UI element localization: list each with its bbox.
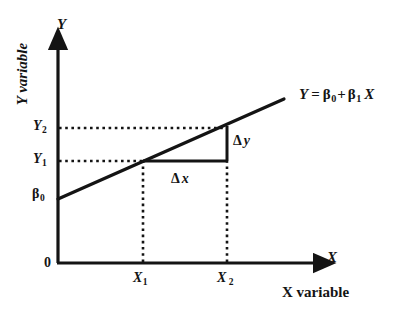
delta-y-glyph: Δ xyxy=(233,133,244,148)
y-tick-label-y2: Y2 xyxy=(33,119,47,135)
delta-y-variable: y xyxy=(244,133,250,148)
equation-intercept-base: β xyxy=(323,86,331,102)
equation-plus: + xyxy=(336,86,348,102)
x-tick-x2-subscript: 2 xyxy=(226,277,233,287)
x-tick-label-x2: X2 xyxy=(217,271,234,287)
x-tick-x1-subscript: 1 xyxy=(142,277,147,287)
y-tick-y2-base: Y xyxy=(33,118,42,133)
x-tick-x2-base: X xyxy=(217,270,226,285)
x-tick-label-x1: X1 xyxy=(133,271,148,287)
y-axis-symbol: Y xyxy=(57,17,66,32)
origin-label: 0 xyxy=(44,256,51,270)
equation-equals: = xyxy=(308,86,323,102)
y-tick-y1-base: Y xyxy=(33,151,42,166)
delta-x-glyph: Δ xyxy=(171,171,182,186)
regression-equation: Y=β0+β1X xyxy=(299,87,374,104)
delta-x-annotation: Δx xyxy=(171,172,189,186)
x-axis-symbol: X xyxy=(327,250,337,265)
y-axis-caption: Y variable xyxy=(15,43,30,105)
delta-x-variable: x xyxy=(182,171,189,186)
delta-y-annotation: Δy xyxy=(233,134,250,148)
equation-regressor: X xyxy=(361,86,374,102)
y-tick-y2-subscript: 2 xyxy=(42,125,47,135)
x-tick-x1-base: X xyxy=(133,270,142,285)
figure-canvas xyxy=(0,0,401,309)
equation-lhs: Y xyxy=(299,86,308,102)
x-axis-caption: X variable xyxy=(282,285,349,300)
intercept-subscript: 0 xyxy=(39,193,44,203)
intercept-label: β0 xyxy=(32,187,45,203)
equation-slope-base: β xyxy=(348,86,356,102)
y-tick-y1-subscript: 1 xyxy=(42,158,47,168)
regression-figure: Y X Y variable X variable 0 Y2 Y1 β0 X1 … xyxy=(0,0,401,309)
y-tick-label-y1: Y1 xyxy=(33,152,47,168)
